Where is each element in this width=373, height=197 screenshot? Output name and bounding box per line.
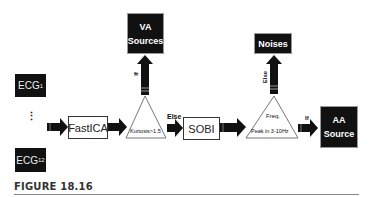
- ecg-1-label: ECG: [18, 80, 40, 91]
- figure-label: FIGURE 18.16: [14, 181, 93, 192]
- arrow-kurtosis-if-to-va: [137, 55, 153, 95]
- va-sources-line1: VA: [140, 20, 152, 34]
- sobi-label: SOBI: [188, 123, 214, 135]
- aa-source-line1: AA: [333, 113, 346, 127]
- diagram-connectors: [0, 0, 373, 197]
- ellipsis-icon: ⋮: [26, 110, 37, 123]
- arrow-ecg-to-fastica: [47, 118, 68, 136]
- freq-condition-line1: Freq.: [266, 113, 280, 119]
- freq-else-label: Else: [262, 71, 268, 83]
- kurtosis-if-label: If: [133, 72, 139, 76]
- aa-source-line2: Source: [324, 127, 355, 141]
- aa-source-box: AA Source: [320, 106, 358, 148]
- ecg-1-box: ECG1: [15, 74, 46, 97]
- va-sources-box: VA Sources: [127, 13, 164, 54]
- caption-divider: [14, 194, 359, 195]
- freq-if-label: If: [305, 115, 309, 121]
- arrow-freq-else-to-noises: [266, 55, 282, 94]
- arrow-sobi-to-freq: [220, 118, 246, 137]
- sobi-box: SOBI: [183, 117, 220, 140]
- ecg-12-subscript: 12: [38, 157, 45, 163]
- ecg-1-subscript: 1: [40, 83, 43, 89]
- arrow-fastica-to-kurtosis: [108, 118, 127, 136]
- arrow-freq-if-to-aa: [298, 119, 318, 137]
- freq-condition-line2: Peak in 3-10Hz: [251, 128, 289, 134]
- arrow-kurtosis-else-to-sobi: [167, 119, 183, 137]
- noises-box: Noises: [254, 33, 292, 54]
- va-sources-line2: Sources: [128, 34, 164, 48]
- fastica-box: FastICA: [68, 116, 108, 139]
- kurtosis-condition: Kurtosis>1.5: [130, 128, 161, 134]
- ecg-12-box: ECG12: [15, 148, 46, 172]
- kurtosis-else-label: Else: [167, 113, 181, 120]
- fastica-label: FastICA: [68, 122, 108, 134]
- noises-label: Noises: [258, 39, 288, 49]
- ecg-12-label: ECG: [16, 155, 38, 166]
